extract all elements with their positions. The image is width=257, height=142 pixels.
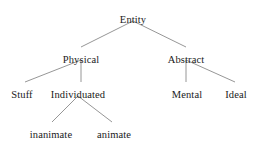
- tree-node-entity: Entity: [120, 14, 146, 26]
- tree-node-ideal: Ideal: [225, 89, 247, 101]
- tree-node-animate: animate: [97, 129, 131, 141]
- tree-node-stuff: Stuff: [11, 89, 32, 101]
- tree-node-abstract: Abstract: [168, 54, 204, 66]
- tree-node-individuated: Individuated: [51, 89, 105, 101]
- taxonomy-tree-diagram: EntityPhysicalAbstractStuffIndividuatedM…: [0, 0, 257, 142]
- tree-node-mental: Mental: [172, 89, 202, 101]
- tree-node-inanimate: inanimate: [30, 129, 72, 141]
- tree-node-physical: Physical: [63, 54, 99, 66]
